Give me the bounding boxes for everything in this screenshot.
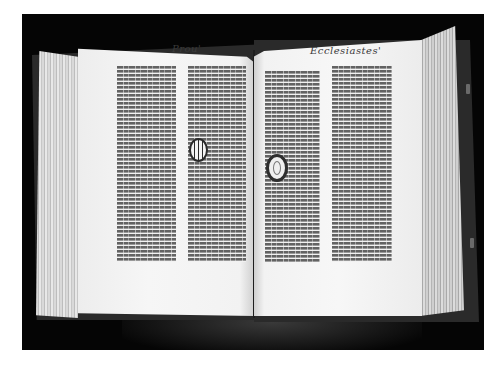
page-edges-left (36, 40, 78, 318)
right-running-head: Ecclesiastes' (310, 45, 381, 56)
decorated-initial-right: O (266, 154, 288, 182)
left-running-head: Prou' (172, 43, 201, 54)
right-page-column-2 (332, 66, 392, 262)
photo-frame: Prou' M Ecclesiastes' O (22, 14, 484, 350)
left-page-column-2 (188, 66, 246, 262)
clasp-icon (466, 84, 470, 94)
left-page-column-1 (117, 66, 176, 262)
clasp-icon (470, 238, 474, 248)
decorated-initial-left: M (189, 138, 208, 162)
